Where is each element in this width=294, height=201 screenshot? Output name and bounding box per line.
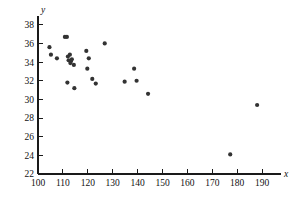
- x-tick-label: 110: [56, 178, 70, 188]
- x-tick-label: 120: [81, 178, 96, 188]
- data-point: [103, 41, 107, 45]
- data-point: [84, 49, 88, 53]
- y-tick-label: 34: [25, 58, 35, 68]
- y-tick-label: 30: [25, 95, 35, 105]
- y-tick-label: 24: [25, 151, 35, 161]
- data-point: [132, 67, 136, 71]
- data-point: [135, 79, 139, 83]
- data-point: [228, 152, 232, 156]
- scatter-plot-figure: 222426283032343638 100110120130140150160…: [0, 0, 294, 201]
- y-axis-label: y: [40, 5, 46, 15]
- y-tick-label: 28: [25, 113, 35, 123]
- data-point: [90, 77, 94, 81]
- y-tick-label: 36: [25, 39, 35, 49]
- y-tick-label: 38: [25, 20, 35, 30]
- data-point: [94, 81, 98, 85]
- y-tick-label: 32: [25, 76, 35, 86]
- x-tick-label: 170: [205, 178, 220, 188]
- data-points: [47, 35, 259, 157]
- data-point: [65, 81, 69, 85]
- x-tick-label: 180: [230, 178, 245, 188]
- x-axis-label: x: [283, 169, 289, 179]
- x-tick-label: 100: [31, 178, 46, 188]
- data-point: [123, 80, 127, 84]
- data-point: [47, 45, 51, 49]
- data-point: [55, 56, 59, 60]
- x-axis-ticks: 100110120130140150160170180190: [31, 169, 270, 188]
- x-tick-label: 160: [180, 178, 195, 188]
- data-point: [85, 67, 89, 71]
- data-point: [70, 57, 74, 61]
- x-tick-label: 150: [155, 178, 170, 188]
- plot-canvas: 222426283032343638 100110120130140150160…: [0, 0, 294, 201]
- data-point: [72, 86, 76, 90]
- x-tick-label: 190: [255, 178, 270, 188]
- data-point: [65, 35, 69, 39]
- data-point: [146, 92, 150, 96]
- x-tick-label: 130: [106, 178, 121, 188]
- x-tick-label: 140: [130, 178, 145, 188]
- data-point: [72, 63, 76, 67]
- y-tick-label: 26: [25, 132, 35, 142]
- data-point: [68, 53, 72, 57]
- data-point: [87, 56, 91, 60]
- data-point: [49, 53, 53, 57]
- data-point: [255, 103, 259, 107]
- y-axis-ticks: 222426283032343638: [25, 20, 44, 179]
